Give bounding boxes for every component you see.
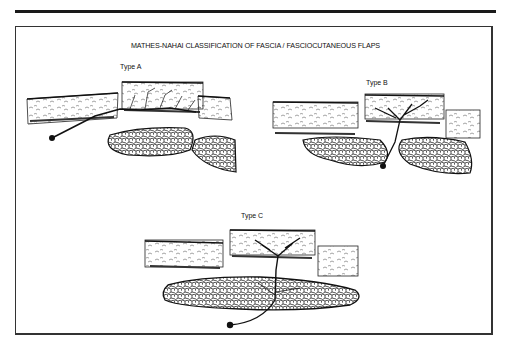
flap-diagram [0, 0, 511, 350]
panel-type-c [145, 230, 359, 328]
panel-type-a [27, 82, 236, 172]
panel-type-b [273, 94, 480, 174]
